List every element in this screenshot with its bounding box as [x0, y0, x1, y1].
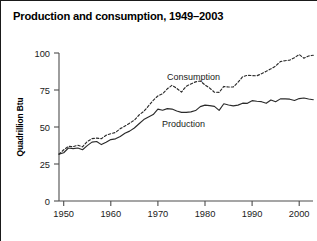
- x-tick-label-1980: 1980: [195, 209, 216, 219]
- y-tick-label-50: 50: [40, 123, 50, 133]
- x-tick-label-1970: 1970: [148, 209, 169, 219]
- y-tick-label-0: 0: [45, 197, 50, 207]
- x-tick-label-2000: 2000: [289, 209, 310, 219]
- y-tick-label-75: 75: [40, 86, 50, 96]
- consumption-line: [59, 54, 313, 154]
- y-tick-label-100: 100: [34, 49, 50, 59]
- y-tick-label-25: 25: [40, 160, 50, 170]
- x-tick-label-1950: 1950: [53, 209, 74, 219]
- y-tick-marks: [54, 53, 59, 201]
- consumption-label: Consumption: [167, 72, 220, 82]
- chart-title: Production and consumption, 1949–2003: [13, 10, 223, 22]
- plot-area: 100 75 50 25 0 Quadrillion Btu 1950 1960…: [1, 29, 317, 241]
- x-tick-marks: [64, 201, 300, 206]
- x-tick-label-1990: 1990: [242, 209, 263, 219]
- chart-svg: 100 75 50 25 0 Quadrillion Btu 1950 1960…: [1, 29, 317, 241]
- chart-figure: Production and consumption, 1949–2003 10…: [0, 0, 317, 241]
- y-axis-title: Quadrillion Btu: [15, 98, 25, 157]
- production-label: Production: [162, 119, 205, 129]
- x-tick-label-1960: 1960: [100, 209, 121, 219]
